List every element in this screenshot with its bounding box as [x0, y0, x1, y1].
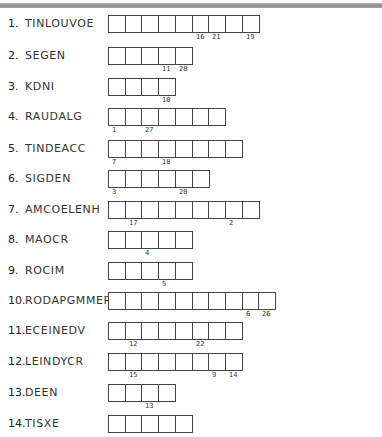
- letter-box[interactable]: [141, 78, 159, 96]
- letter-box[interactable]: [175, 231, 193, 249]
- scrambled-word: ROCIM: [25, 264, 65, 277]
- letter-box[interactable]: [108, 78, 126, 96]
- letter-box[interactable]: [225, 353, 243, 371]
- letter-box[interactable]: [175, 201, 193, 219]
- letter-box[interactable]: [108, 353, 126, 371]
- letter-box[interactable]: [175, 415, 193, 433]
- letter-box[interactable]: [208, 108, 226, 126]
- letter-box[interactable]: [242, 201, 260, 219]
- scrambled-word: AMCOELENH: [25, 203, 100, 216]
- letter-box[interactable]: [158, 231, 176, 249]
- letter-box[interactable]: [192, 170, 210, 188]
- letter-box[interactable]: [141, 231, 159, 249]
- letter-box[interactable]: [208, 292, 226, 310]
- letter-box[interactable]: [141, 353, 159, 371]
- row-number: 9.: [8, 264, 19, 277]
- letter-box[interactable]: [108, 47, 126, 65]
- letter-box[interactable]: [175, 322, 193, 340]
- puzzle-row: 6.SIGDEN320: [0, 170, 382, 200]
- letter-box[interactable]: [158, 322, 176, 340]
- clue-number: 13: [145, 402, 153, 410]
- letter-box[interactable]: [208, 140, 226, 158]
- letter-box[interactable]: [141, 108, 159, 126]
- puzzle-row: 2.SEGEN1128: [0, 47, 382, 77]
- clue-number: 28: [179, 65, 187, 73]
- letter-box[interactable]: [141, 292, 159, 310]
- letter-box[interactable]: [225, 15, 243, 33]
- letter-box[interactable]: [175, 140, 193, 158]
- letter-box[interactable]: [175, 15, 193, 33]
- clue-number: 21: [212, 33, 220, 41]
- letter-box[interactable]: [108, 15, 126, 33]
- puzzle-row: 9.ROCIM5: [0, 262, 382, 292]
- letter-box[interactable]: [175, 262, 193, 280]
- scrambled-word: DEEN: [25, 386, 58, 399]
- letter-box[interactable]: [208, 201, 226, 219]
- letter-box[interactable]: [175, 292, 193, 310]
- letter-box[interactable]: [141, 415, 159, 433]
- letter-box[interactable]: [175, 47, 193, 65]
- letter-box[interactable]: [108, 170, 126, 188]
- letter-box[interactable]: [141, 47, 159, 65]
- letter-box[interactable]: [108, 384, 126, 402]
- clue-number: 26: [262, 310, 270, 318]
- clue-number: 3: [112, 188, 116, 196]
- letter-box[interactable]: [141, 201, 159, 219]
- letter-box[interactable]: [158, 292, 176, 310]
- letter-box[interactable]: [225, 201, 243, 219]
- scrambled-word: RODAPGMMER: [25, 294, 112, 307]
- clue-number: 15: [129, 371, 137, 379]
- puzzle-row: 12.LEINDYCR15914: [0, 353, 382, 383]
- row-number: 4.: [8, 110, 19, 123]
- puzzle-row: 11.ECEINEDV1222: [0, 322, 382, 352]
- letter-box[interactable]: [108, 262, 126, 280]
- letter-box[interactable]: [108, 201, 126, 219]
- letter-box[interactable]: [242, 15, 260, 33]
- clue-number: 27: [145, 126, 153, 134]
- letter-box[interactable]: [141, 262, 159, 280]
- letter-box[interactable]: [158, 262, 176, 280]
- letter-box[interactable]: [158, 384, 176, 402]
- letter-box[interactable]: [158, 108, 176, 126]
- puzzle-row: 7.AMCOELENH172: [0, 201, 382, 231]
- row-number: 10.: [8, 294, 26, 307]
- row-number: 5.: [8, 142, 19, 155]
- letter-box[interactable]: [108, 292, 126, 310]
- letter-box[interactable]: [141, 170, 159, 188]
- letter-box[interactable]: [158, 201, 176, 219]
- letter-box[interactable]: [108, 231, 126, 249]
- letter-box[interactable]: [108, 140, 126, 158]
- letter-box[interactable]: [141, 15, 159, 33]
- clue-number: 11: [162, 65, 170, 73]
- letter-box[interactable]: [158, 170, 176, 188]
- row-number: 11.: [8, 324, 26, 337]
- clue-number: 22: [196, 340, 204, 348]
- letter-box[interactable]: [175, 170, 193, 188]
- letter-box[interactable]: [225, 292, 243, 310]
- letter-box[interactable]: [208, 353, 226, 371]
- letter-box[interactable]: [208, 15, 226, 33]
- letter-box[interactable]: [225, 140, 243, 158]
- puzzle-row: 8.MAOCR4: [0, 231, 382, 261]
- letter-box[interactable]: [158, 47, 176, 65]
- letter-box[interactable]: [175, 353, 193, 371]
- letter-box[interactable]: [141, 322, 159, 340]
- letter-box[interactable]: [158, 140, 176, 158]
- letter-box[interactable]: [141, 384, 159, 402]
- puzzle-row: 13.DEEN13: [0, 384, 382, 414]
- letter-box[interactable]: [208, 322, 226, 340]
- letter-box[interactable]: [108, 108, 126, 126]
- row-number: 12.: [8, 355, 26, 368]
- letter-box[interactable]: [175, 108, 193, 126]
- letter-box[interactable]: [158, 15, 176, 33]
- letter-box[interactable]: [158, 415, 176, 433]
- clue-number: 5: [162, 280, 166, 288]
- row-number: 8.: [8, 233, 19, 246]
- letter-box[interactable]: [158, 78, 176, 96]
- letter-box[interactable]: [158, 353, 176, 371]
- letter-box[interactable]: [108, 415, 126, 433]
- letter-box[interactable]: [225, 322, 243, 340]
- letter-box[interactable]: [108, 322, 126, 340]
- letter-box[interactable]: [141, 140, 159, 158]
- letter-box[interactable]: [258, 292, 276, 310]
